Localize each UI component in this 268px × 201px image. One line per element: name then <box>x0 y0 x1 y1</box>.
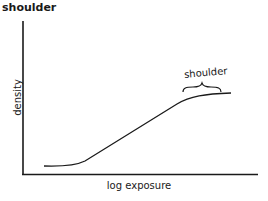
chart-plot-area <box>0 0 268 201</box>
curve-line <box>44 93 231 166</box>
x-axis-label: log exposure <box>0 180 268 191</box>
y-axis-label: density <box>12 73 23 123</box>
shoulder-brace <box>183 83 221 92</box>
